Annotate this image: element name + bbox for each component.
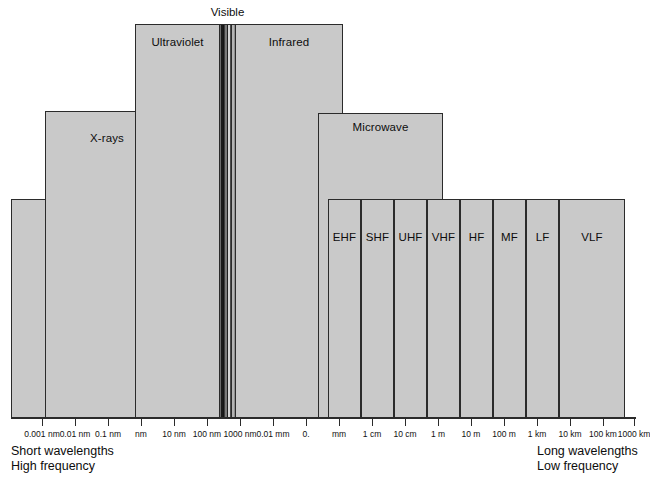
axis-tick-label-9: mm [332,429,346,439]
radio-band-label-mf: MF [493,231,526,244]
radio-band-label-uhf: UHF [394,231,427,244]
axis-tick-label-4: 10 nm [162,429,186,439]
radio-band-label-vhf: VHF [427,231,460,244]
axis-tick-14 [504,417,505,426]
radio-band-label-lf: LF [526,231,559,244]
axis-tick-label-10: 1 cm [363,429,381,439]
axis-tick-0 [42,417,43,426]
axis-tick-5 [207,417,208,426]
axis-tick-16 [570,417,571,426]
axis-tick-9 [339,417,340,426]
visible-label: Visible [180,6,275,18]
radio-band-label-ehf: EHF [328,231,361,244]
radio-band-label-vlf: VLF [559,231,625,244]
short-wavelength-caption: Short wavelengths High frequency [11,444,114,474]
axis-tick-3 [141,417,142,426]
axis-baseline [11,417,636,419]
axis-tick-18 [634,417,635,426]
axis-tick-label-0: 0.001 nm [24,429,59,439]
axis-tick-13 [471,417,472,426]
axis-tick-7 [273,417,274,426]
visible-stripe-10 [234,25,235,417]
axis-tick-label-11: 10 cm [393,429,416,439]
axis-tick-label-16: 10 km [558,429,581,439]
axis-tick-12 [438,417,439,426]
axis-tick-6 [240,417,241,426]
axis-tick-10 [372,417,373,426]
band-label-microwave: Microwave [318,121,443,134]
axis-tick-label-1: 0.01 nm [60,429,91,439]
axis-tick-8 [306,417,307,426]
axis-tick-label-12: 1 m [431,429,445,439]
axis-tick-label-13: 10 m [462,429,481,439]
axis-tick-label-8: 0. [302,429,309,439]
axis-tick-label-2: 0.1 nm [95,429,121,439]
axis-tick-label-17: 100 km [589,429,617,439]
axis-tick-15 [537,417,538,426]
axis-tick-label-6: 1000 nm [223,429,256,439]
band-label-ultraviolet: Ultraviolet [135,36,220,49]
axis-tick-4 [174,417,175,426]
axis-tick-1 [75,417,76,426]
axis-tick-11 [405,417,406,426]
axis-tick-label-3: nm [135,429,147,439]
axis-tick-label-5: 100 nm [193,429,221,439]
axis-tick-2 [108,417,109,426]
axis-tick-label-7: 0.01 mm [256,429,289,439]
radio-band-label-hf: HF [460,231,493,244]
long-wavelength-caption: Long wavelengths Low frequency [537,444,638,474]
band-label-infrared: Infrared [235,36,343,49]
band-ultraviolet [135,24,220,418]
radio-band-label-shf: SHF [361,231,394,244]
axis-tick-label-15: 1 km [528,429,546,439]
axis-tick-17 [603,417,604,426]
axis-tick-label-14: 100 m [492,429,516,439]
visible-spectrum-stripes [220,24,235,418]
axis-tick-label-18: 1000 km [618,429,650,439]
